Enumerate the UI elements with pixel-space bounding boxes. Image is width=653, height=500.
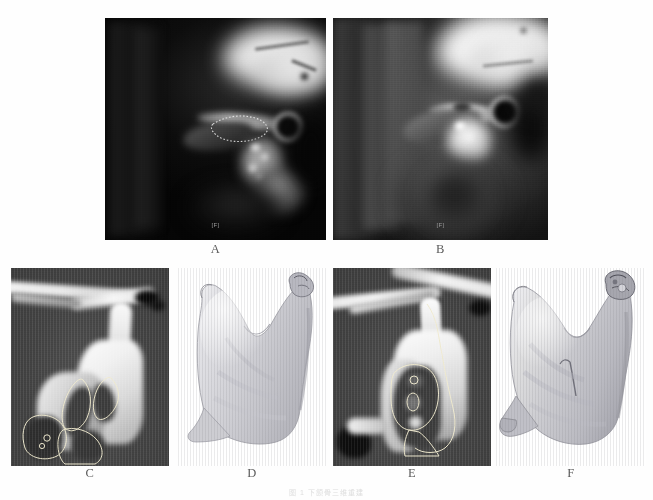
panel-a-image: [F] [105, 18, 326, 240]
panel-d-image [178, 268, 326, 466]
panel-f [496, 268, 646, 466]
segmentation-contour-e [333, 268, 491, 466]
panel-c-image [11, 268, 169, 466]
panel-e-label: E [333, 466, 491, 481]
panel-a: [F] [105, 18, 326, 240]
figure-caption: 图 1 下颌骨三维重建 [0, 487, 653, 497]
mandible-3d-surface-f [496, 268, 646, 466]
panel-b: [F] [333, 18, 548, 240]
panel-b-image: [F] [333, 18, 548, 240]
panel-a-label: A [105, 242, 326, 257]
panel-e [333, 268, 491, 466]
panel-d [178, 268, 326, 466]
panel-f-label: F [496, 466, 646, 481]
panel-c [11, 268, 169, 466]
panel-a-orientation-marker: [F] [105, 222, 326, 228]
segmentation-contour-c [11, 268, 169, 466]
panel-f-image [496, 268, 646, 466]
panel-e-image [333, 268, 491, 466]
mandible-3d-surface-d [178, 268, 326, 466]
panel-b-label: B [333, 242, 548, 257]
panel-c-label: C [11, 466, 169, 481]
panel-d-label: D [178, 466, 326, 481]
figure-container: [F] A [0, 0, 653, 500]
panel-b-orientation-marker: [F] [333, 222, 548, 228]
